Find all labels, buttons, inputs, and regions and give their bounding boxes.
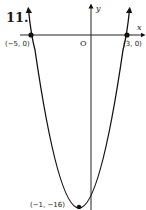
label-vertex: (−1, −16) <box>30 201 65 209</box>
label-y-axis: y <box>96 4 101 13</box>
label-left-root: (−5, 0) <box>5 40 30 48</box>
point-left-root <box>28 32 33 37</box>
point-right-root <box>124 32 129 37</box>
parabola-curve <box>29 10 130 208</box>
label-origin: O <box>80 39 87 48</box>
label-x-axis: x <box>137 23 142 32</box>
parabola-graph <box>0 0 146 210</box>
point-vertex <box>77 205 81 209</box>
label-right-root: (3, 0) <box>123 40 142 48</box>
